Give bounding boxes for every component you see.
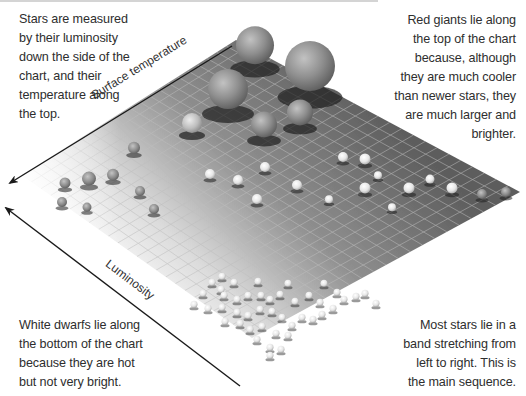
white-dwarf-star: [285, 280, 292, 287]
caption-line: band stretching from: [403, 335, 516, 354]
main-sequence-star: [60, 177, 71, 188]
main-sequence-star: [360, 153, 371, 164]
red-giant-star: [285, 41, 335, 91]
main-sequence-star: [447, 182, 458, 193]
white-dwarf-star: [321, 280, 328, 287]
white-dwarf-star: [277, 291, 284, 298]
red-giant-star: [251, 111, 277, 137]
white-dwarf-star: [269, 308, 276, 315]
white-dwarf-star: [285, 332, 292, 339]
white-dwarf-star: [221, 292, 228, 299]
white-dwarf-star: [257, 306, 264, 313]
main-sequence-star: [128, 142, 140, 154]
white-dwarf-star: [317, 299, 324, 306]
main-sequence-star: [426, 175, 435, 184]
white-dwarf-star: [267, 296, 274, 303]
main-sequence-star: [292, 180, 302, 190]
main-sequence-star: [82, 172, 96, 186]
white-dwarf-star: [289, 322, 296, 329]
main-sequence-star: [107, 169, 119, 181]
main-sequence-star: [149, 204, 159, 214]
main-sequence-star: [260, 162, 270, 172]
white-dwarf-star: [191, 301, 198, 308]
white-dwarf-star: [231, 279, 238, 286]
red-giant-star: [208, 69, 248, 109]
caption-line: down the side of the: [19, 48, 130, 67]
white-dwarf-star: [259, 323, 266, 330]
white-dwarf-star: [258, 292, 265, 299]
white-dwarf-star: [292, 298, 299, 305]
white-dwarf-star: [299, 314, 306, 321]
caption-measurement: Stars are measured by their luminosity d…: [19, 10, 130, 124]
main-sequence-star: [233, 175, 243, 185]
white-dwarf-star: [267, 352, 274, 359]
white-dwarf-star: [218, 286, 225, 293]
white-dwarf-star: [279, 314, 286, 321]
white-dwarf-star: [306, 292, 313, 299]
main-sequence-star: [83, 203, 92, 212]
white-dwarf-star: [254, 336, 261, 343]
caption-line: the bottom of the chart: [19, 335, 143, 354]
main-sequence-star: [404, 182, 415, 193]
main-sequence-star: [477, 189, 487, 199]
caption-line: by their luminosity: [19, 29, 130, 48]
white-dwarf-star: [247, 326, 254, 333]
white-dwarf-star: [334, 289, 341, 296]
red-giant-star: [287, 99, 313, 125]
white-dwarf-star: [222, 318, 229, 325]
white-dwarf-star: [362, 290, 369, 297]
white-dwarf-star: [234, 296, 241, 303]
white-dwarf-star: [319, 311, 326, 318]
white-dwarf-star: [245, 312, 252, 319]
caption-main-sequence: Most stars lie in a band stretching from…: [403, 316, 516, 392]
caption-line: the top of the chart: [394, 30, 516, 49]
white-dwarf-star: [373, 300, 380, 307]
white-dwarf-star: [209, 279, 216, 286]
red-giant-star: [236, 26, 274, 64]
caption-line: than newer stars, they: [394, 87, 516, 106]
caption-line: Most stars lie in a: [403, 316, 516, 335]
main-sequence-star: [205, 169, 215, 179]
caption-line: White dwarfs lie along: [19, 316, 143, 335]
white-dwarf-star: [255, 278, 262, 285]
caption-white-dwarfs: White dwarfs lie along the bottom of the…: [19, 316, 143, 392]
main-sequence-star: [501, 187, 511, 197]
white-dwarf-star: [310, 316, 317, 323]
main-sequence-star: [388, 203, 396, 211]
main-sequence-star: [360, 182, 371, 193]
caption-line: they are much cooler: [394, 68, 516, 87]
caption-line: brighter.: [394, 125, 516, 144]
main-sequence-star: [325, 195, 333, 203]
white-dwarf-star: [237, 320, 244, 327]
caption-line: the main sequence.: [403, 373, 516, 392]
white-dwarf-star: [245, 292, 252, 299]
white-dwarf-star: [341, 296, 348, 303]
caption-line: because, although: [394, 49, 516, 68]
caption-line: temperature along: [19, 86, 130, 105]
caption-line: Stars are measured: [19, 10, 130, 29]
caption-line: the top.: [19, 105, 130, 124]
caption-red-giants: Red giants lie along the top of the char…: [394, 11, 516, 144]
white-dwarf-star: [278, 346, 285, 353]
white-dwarf-star: [234, 309, 241, 316]
caption-line: left to right. This is: [403, 354, 516, 373]
white-dwarf-star: [330, 305, 337, 312]
white-dwarf-star: [273, 330, 280, 337]
main-sequence-star: [57, 197, 67, 207]
white-dwarf-star: [353, 293, 360, 300]
caption-line: chart, and their: [19, 67, 130, 86]
main-sequence-star: [135, 186, 145, 196]
main-sequence-star: [338, 152, 348, 162]
main-sequence-star: [252, 194, 262, 204]
white-dwarf-star: [219, 273, 226, 280]
caption-line: but not very bright.: [19, 373, 143, 392]
caption-line: are much larger and: [394, 106, 516, 125]
white-dwarf-star: [205, 305, 212, 312]
caption-line: because they are hot: [19, 354, 143, 373]
red-giant-star: [182, 113, 202, 133]
main-sequence-star: [374, 171, 382, 179]
white-dwarf-star: [267, 344, 274, 351]
white-dwarf-star: [219, 304, 226, 311]
white-dwarf-star: [200, 290, 207, 297]
caption-line: Red giants lie along: [394, 11, 516, 30]
